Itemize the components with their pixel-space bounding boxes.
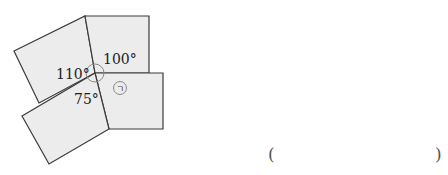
answer-blank[interactable] bbox=[282, 140, 432, 166]
unknown-angle-marker: ㄱ bbox=[116, 84, 124, 94]
angle-label-100: 100° bbox=[103, 51, 137, 67]
answer-open-paren: ( bbox=[268, 144, 275, 164]
angle-label-110: 110° bbox=[56, 66, 90, 82]
answer-close-paren: ) bbox=[435, 144, 442, 164]
angle-label-75: 75° bbox=[74, 91, 99, 107]
